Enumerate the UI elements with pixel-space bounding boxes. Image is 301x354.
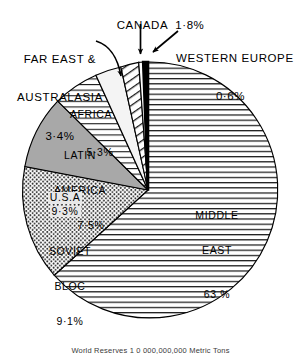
label-western-europe-value: 0·6%: [176, 90, 301, 103]
label-western-europe: WESTERN EUROPE 0·6%: [176, 26, 301, 129]
label-middle-east-line1: MIDDLE: [176, 210, 258, 222]
label-soviet-bloc: SOVIET BLOC 9·1%: [34, 222, 106, 351]
label-latin-america-line1: LATIN: [40, 150, 120, 162]
figure-caption: World Reserves 1 0 000,000,000 Metric To…: [0, 346, 301, 354]
label-africa-name: AFRICA: [58, 109, 124, 121]
label-far-east-line1: FAR EAST &: [2, 53, 118, 66]
label-usa-name: U.S.A: [48, 192, 82, 204]
pie-chart-figure: CANADA 1·8% WESTERN EUROPE 0·6% FAR EAST…: [0, 0, 301, 354]
label-middle-east: MIDDLE EAST 63 %: [176, 186, 258, 324]
label-middle-east-value: 63 %: [176, 289, 258, 301]
label-soviet-bloc-value: 9·1%: [34, 316, 106, 328]
label-soviet-bloc-line2: BLOC: [34, 281, 106, 293]
label-usa-value: 9·3%: [50, 206, 81, 218]
label-middle-east-line2: EAST: [176, 245, 258, 257]
label-western-europe-name: WESTERN EUROPE: [176, 52, 301, 65]
label-soviet-bloc-line1: SOVIET: [34, 246, 106, 258]
